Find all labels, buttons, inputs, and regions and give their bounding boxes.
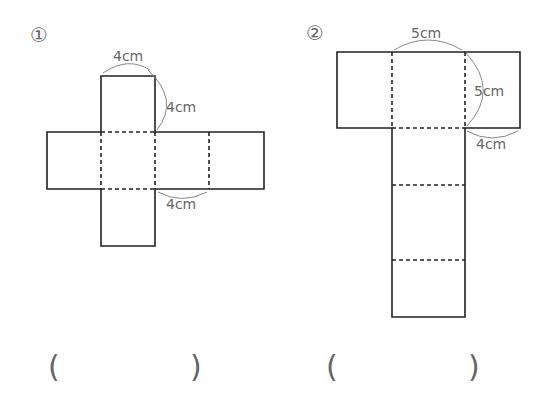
answer-1-close: ) <box>190 349 202 384</box>
answer-1-open: ( <box>48 349 60 384</box>
label-2-top: 5cm <box>411 25 441 41</box>
answer-2-close: ) <box>468 349 480 384</box>
problem-2: ② 5cm 5cm 4cm <box>306 21 520 317</box>
label-2-side: 5cm <box>474 83 504 99</box>
net-1 <box>47 76 264 246</box>
problem-1-number: ① <box>30 23 48 47</box>
problem-2-number: ② <box>306 21 324 45</box>
problem-1: ① 4cm 4cm 4cm <box>30 23 264 246</box>
label-1-side: 4cm <box>166 99 196 115</box>
diagram-canvas: ① 4cm 4cm 4cm ② <box>0 0 541 412</box>
label-1-bottom: 4cm <box>166 196 196 212</box>
answer-blanks: ( ) ( ) <box>48 349 480 384</box>
label-1-top: 4cm <box>113 48 143 64</box>
label-2-bottom: 4cm <box>476 136 506 152</box>
answer-2-open: ( <box>326 349 338 384</box>
